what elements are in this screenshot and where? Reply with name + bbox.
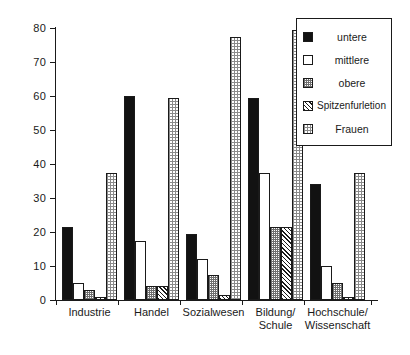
x-axis-tick [371, 300, 372, 305]
legend-label: Frauen [313, 123, 391, 135]
y-axis-tick [50, 266, 56, 267]
bar-group [62, 28, 117, 300]
bar-group [124, 28, 179, 300]
legend-label: untere [313, 31, 391, 43]
white-swatch-icon [303, 55, 313, 65]
legend-label: obere [313, 77, 391, 89]
bar-frauen [106, 173, 117, 301]
y-axis-tick [50, 198, 56, 199]
y-axis-tick [50, 96, 56, 97]
y-axis-tick-label: 80 [33, 22, 46, 34]
bar-untere [62, 227, 73, 300]
x-axis-tick [118, 300, 119, 305]
y-axis-tick-label: 50 [33, 124, 46, 136]
solid-black-swatch-icon [303, 32, 313, 42]
x-axis-category-labels: IndustrieHandelSozialwesenBildung/ Schul… [0, 306, 410, 352]
bar-spitzen [281, 227, 292, 300]
x-axis-tick [180, 300, 181, 305]
bar-group [186, 28, 241, 300]
bar-chart: 01020304050607080 IndustrieHandelSozialw… [0, 0, 410, 355]
y-axis-tick [50, 130, 56, 131]
coarse-dotted-swatch-icon [303, 124, 313, 134]
bar-mittlere [259, 173, 270, 301]
x-axis-tick [242, 300, 243, 305]
legend-label: mittlere [313, 54, 391, 66]
fine-dotted-swatch-icon [303, 78, 313, 88]
bar-untere [124, 96, 135, 300]
bar-spitzen [157, 286, 168, 300]
bar-obere [146, 286, 157, 300]
y-axis-tick [50, 232, 56, 233]
bar-spitzen [219, 295, 230, 300]
bar-frauen [168, 98, 179, 300]
legend-item-obere: obere [297, 71, 391, 94]
bar-mittlere [321, 266, 332, 300]
y-axis-tick-label: 60 [33, 90, 46, 102]
bar-untere [310, 184, 321, 300]
legend-label: Spitzenfurletion [313, 100, 391, 111]
bar-obere [332, 283, 343, 300]
y-axis-tick-label: 30 [33, 192, 46, 204]
bar-mittlere [135, 241, 146, 301]
bar-frauen [354, 173, 365, 301]
bar-frauen [230, 37, 241, 301]
x-axis-label-5: Hochschule/ Wissenschaft [298, 306, 378, 332]
y-axis-tick-label: 10 [33, 260, 46, 272]
y-axis-tick-label: 40 [33, 158, 46, 170]
bar-untere [248, 98, 259, 300]
legend-item-untere: untere [297, 25, 391, 48]
y-axis-tick [50, 164, 56, 165]
x-axis-line [55, 300, 378, 301]
bar-mittlere [197, 259, 208, 300]
legend-item-spitzenfurletion: Spitzenfurletion [297, 94, 391, 117]
bar-obere [84, 290, 95, 300]
diagonal-hatch-swatch-icon [303, 101, 313, 111]
y-axis-tick-label: 0 [40, 294, 46, 306]
bar-spitzen [95, 297, 106, 300]
legend-item-mittlere: mittlere [297, 48, 391, 71]
bar-obere [270, 227, 281, 300]
bar-mittlere [73, 283, 84, 300]
bar-untere [186, 234, 197, 300]
x-axis-tick [304, 300, 305, 305]
x-axis-tick [56, 300, 57, 305]
y-axis-tick-label: 20 [33, 226, 46, 238]
legend-item-frauen: Frauen [297, 117, 391, 140]
y-axis-tick-label: 70 [33, 56, 46, 68]
bar-group [248, 28, 303, 300]
bar-spitzen [343, 297, 354, 300]
bar-obere [208, 275, 219, 301]
y-axis-tick [50, 28, 56, 29]
y-axis-tick [50, 62, 56, 63]
chart-legend: untere mittlere obere Spitzenfurletion F… [296, 18, 392, 146]
